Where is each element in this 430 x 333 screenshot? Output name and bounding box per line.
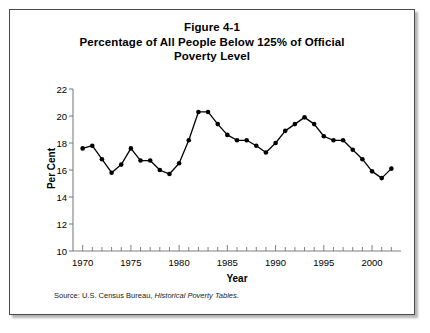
y-tick-label: 10 — [43, 246, 67, 257]
data-point — [293, 122, 298, 127]
data-point — [389, 166, 394, 171]
y-tick-label: 16 — [43, 165, 67, 176]
data-point — [80, 146, 85, 151]
data-point — [119, 162, 124, 167]
x-tick-label: 1980 — [169, 257, 190, 268]
data-point — [302, 115, 307, 120]
data-point — [100, 157, 105, 162]
data-point — [225, 133, 230, 138]
data-point — [196, 110, 201, 115]
y-tick-label: 12 — [43, 219, 67, 230]
source-prefix: Source: U.S. Census Bureau, — [54, 291, 152, 300]
data-point — [138, 158, 143, 163]
line-chart — [10, 10, 416, 316]
data-point — [129, 146, 134, 151]
data-line — [83, 112, 392, 178]
x-tick-label: 2000 — [361, 257, 382, 268]
data-point — [331, 138, 336, 143]
x-tick-label: 1970 — [72, 257, 93, 268]
figure-frame: Figure 4-1 Percentage of All People Belo… — [9, 9, 415, 315]
x-tick-label: 1975 — [120, 257, 141, 268]
data-point — [283, 129, 288, 134]
chart-plot-area — [10, 10, 416, 316]
data-point — [206, 110, 211, 115]
y-tick-label: 18 — [43, 138, 67, 149]
data-point — [312, 122, 317, 127]
x-tick-label: 1990 — [265, 257, 286, 268]
data-point — [167, 172, 172, 177]
x-tick-label: 1995 — [313, 257, 334, 268]
data-point — [370, 169, 375, 174]
data-point — [273, 141, 278, 146]
data-point — [90, 143, 95, 148]
data-point — [148, 158, 153, 163]
y-tick-label: 22 — [43, 84, 67, 95]
data-point — [215, 122, 220, 127]
data-point — [322, 134, 327, 139]
data-point — [360, 157, 365, 162]
data-point — [379, 176, 384, 181]
data-point — [264, 150, 269, 155]
data-point — [109, 170, 114, 175]
data-point — [235, 138, 240, 143]
x-tick-label: 1985 — [217, 257, 238, 268]
data-point — [158, 168, 163, 173]
data-point — [244, 138, 249, 143]
source-note: Source: U.S. Census Bureau, Historical P… — [54, 291, 239, 300]
data-point — [341, 138, 346, 143]
x-axis-title: Year — [73, 273, 401, 284]
data-point — [254, 143, 259, 148]
source-suffix: . — [237, 291, 239, 300]
source-italic-title: Historical Poverty Tables — [154, 291, 236, 300]
data-point — [177, 161, 182, 166]
data-point — [350, 147, 355, 152]
y-tick-label: 20 — [43, 111, 67, 122]
y-tick-label: 14 — [43, 192, 67, 203]
data-point — [186, 138, 191, 143]
